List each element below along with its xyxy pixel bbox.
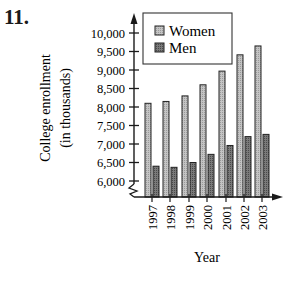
bar-men-1998 — [171, 167, 177, 197]
legend: WomenMen — [143, 13, 232, 64]
y-tick-label: 8,500 — [97, 82, 125, 96]
bars — [145, 46, 269, 197]
bar-women-1997 — [145, 103, 151, 197]
bar-women-2002 — [237, 55, 243, 197]
y-tick-label: 6,500 — [97, 156, 125, 170]
y-tick-label: 8,000 — [97, 101, 125, 115]
y-axis-arrow-icon — [131, 13, 138, 24]
y-tick-label: 7,000 — [97, 138, 125, 152]
legend-swatch-men — [155, 43, 164, 52]
bar-men-2001 — [227, 145, 233, 197]
bar-women-2000 — [200, 85, 206, 197]
y-axis-title-line: (in thousands) — [58, 68, 74, 148]
x-axis: 1997199819992000200120022003Year — [134, 194, 283, 266]
x-tick-label: 1998 — [164, 205, 178, 230]
bar-women-2003 — [255, 46, 261, 197]
legend-label-women: Women — [169, 23, 216, 39]
y-axis-title-line: College enrollment — [38, 54, 53, 162]
x-tick-label: 2003 — [256, 205, 270, 230]
x-tick-label: 2000 — [201, 205, 215, 230]
y-axis-title: College enrollment(in thousands) — [38, 54, 74, 162]
x-tick-label: 2001 — [220, 205, 234, 230]
y-tick-label: 9,000 — [97, 64, 125, 78]
x-axis-arrow-icon — [272, 194, 283, 201]
bar-women-1999 — [182, 96, 188, 197]
bar-men-1999 — [190, 163, 196, 198]
x-tick-label: 1999 — [183, 205, 197, 230]
y-tick-label: 10,000 — [91, 27, 125, 41]
y-tick-label: 9,500 — [97, 45, 125, 59]
bar-women-2001 — [219, 71, 225, 197]
axis-break-icon — [129, 184, 137, 197]
x-tick-label: 1997 — [146, 205, 160, 230]
bar-men-2000 — [208, 154, 214, 197]
y-tick-label: 6,000 — [97, 175, 125, 189]
y-axis: 6,0006,5007,0007,5008,0008,5009,0009,500… — [91, 13, 139, 197]
legend-swatch-women — [155, 26, 164, 35]
bar-men-2003 — [263, 134, 269, 197]
y-tick-label: 7,500 — [97, 119, 125, 133]
x-axis-title: Year — [194, 250, 220, 265]
bar-men-2002 — [245, 137, 251, 197]
legend-label-men: Men — [169, 40, 197, 56]
bar-men-1997 — [153, 166, 159, 197]
x-tick-label: 2002 — [238, 205, 252, 230]
bar-chart: College enrollment(in thousands) 6,0006,… — [0, 0, 284, 281]
bar-women-1998 — [163, 101, 169, 197]
